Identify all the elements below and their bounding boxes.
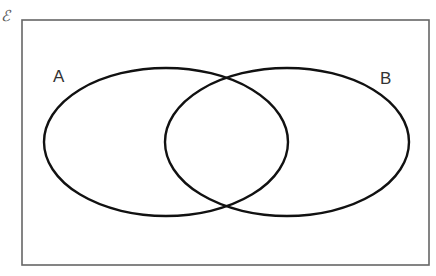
universal-set-symbol: ℰ (1, 9, 10, 24)
universal-set-rectangle (22, 20, 429, 265)
set-b-label: B (380, 70, 391, 87)
venn-diagram (0, 0, 436, 276)
set-a-label: A (53, 68, 64, 85)
